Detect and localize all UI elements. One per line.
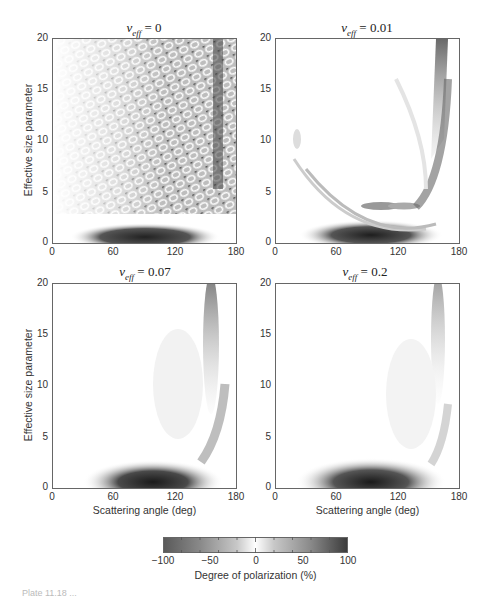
heatmap-plot <box>52 283 237 489</box>
panel-title: veff = 0 <box>104 20 184 38</box>
x-tick: 0 <box>37 246 67 257</box>
x-tick: 120 <box>160 491 190 502</box>
panel-title: veff = 0.01 <box>322 20 412 38</box>
y-tick: 15 <box>251 83 271 94</box>
x-axis-label: Scattering angle (deg) <box>52 504 237 516</box>
heatmap-plot <box>275 283 460 489</box>
x-tick: 60 <box>98 246 128 257</box>
x-tick: 0 <box>260 491 290 502</box>
panel-title: veff = 0.2 <box>325 264 405 282</box>
heatmap-image <box>53 284 237 489</box>
x-tick: 60 <box>98 491 128 502</box>
title-sub: eff <box>125 272 134 282</box>
title-value: = 0 <box>144 20 161 35</box>
x-tick: 60 <box>321 491 351 502</box>
x-tick: 180 <box>444 246 474 257</box>
title-value: = 0.07 <box>137 264 170 279</box>
x-tick: 60 <box>321 246 351 257</box>
x-tick: 0 <box>37 491 67 502</box>
title-sub: eff <box>347 28 356 38</box>
colorbar-tick: −100 <box>148 555 178 566</box>
x-tick: 120 <box>383 246 413 257</box>
colorbar-tick: 100 <box>333 555 363 566</box>
x-tick: 0 <box>260 246 290 257</box>
y-tick: 20 <box>251 277 271 288</box>
heatmap-image <box>53 39 237 244</box>
title-sub: eff <box>132 28 141 38</box>
heatmap-image <box>276 39 460 244</box>
heatmap-image <box>276 284 460 489</box>
x-tick: 120 <box>383 491 413 502</box>
x-tick: 180 <box>221 491 251 502</box>
colorbar-tick: 50 <box>288 555 318 566</box>
title-sub: eff <box>348 272 357 282</box>
panel-title: veff = 0.07 <box>100 264 190 282</box>
colorbar-tick: 0 <box>241 555 271 566</box>
y-tick: 15 <box>251 328 271 339</box>
heatmap-plot <box>275 38 460 244</box>
x-tick: 120 <box>160 246 190 257</box>
y-tick: 20 <box>28 277 48 288</box>
y-tick: 5 <box>251 431 271 442</box>
y-axis-label: Effective size parameter <box>22 60 34 220</box>
title-value: = 0.2 <box>361 264 388 279</box>
y-axis-label: Effective size parameter <box>22 305 34 465</box>
colorbar-tick: −50 <box>195 555 225 566</box>
figure-caption: Plate 11.18 ... <box>22 588 77 598</box>
title-value: = 0.01 <box>359 20 392 35</box>
colorbar <box>163 537 348 553</box>
x-tick: 180 <box>221 246 251 257</box>
colorbar-label: Degree of polarization (%) <box>163 569 348 581</box>
y-tick: 10 <box>251 134 271 145</box>
y-tick: 20 <box>251 32 271 43</box>
y-tick: 5 <box>251 186 271 197</box>
y-tick: 20 <box>28 32 48 43</box>
colorbar-ticks <box>163 537 348 553</box>
x-tick: 180 <box>444 491 474 502</box>
heatmap-plot <box>52 38 237 244</box>
x-axis-label: Scattering angle (deg) <box>275 504 460 516</box>
y-tick: 10 <box>251 379 271 390</box>
